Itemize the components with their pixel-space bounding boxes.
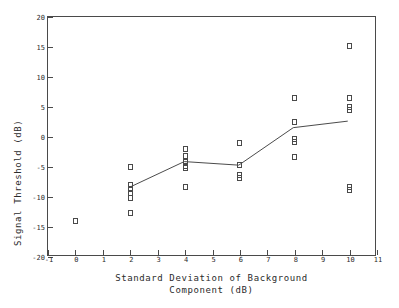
data-point-marker <box>183 165 188 171</box>
y-tick-label: -10 <box>32 195 45 202</box>
y-tick-label: 15 <box>37 45 45 52</box>
x-tick-label: 9 <box>321 257 325 264</box>
x-tick-label: 7 <box>266 257 270 264</box>
x-tick-label: 10 <box>346 257 354 264</box>
data-point-marker <box>73 218 78 224</box>
y-axis-title: Signal Threshold (dB) <box>2 50 16 250</box>
x-tick-label: 3 <box>157 257 161 264</box>
y-tick-label: 0 <box>41 135 45 142</box>
data-point-marker <box>292 139 297 145</box>
scatter-plot-figure: Signal Threshold (dB) -20-15-10-50510152… <box>0 0 399 308</box>
y-tick-label: -5 <box>37 165 45 172</box>
y-tick-label: 10 <box>37 75 45 82</box>
x-tick-label: 0 <box>74 257 78 264</box>
y-tick-label: 5 <box>41 105 45 112</box>
data-point-marker <box>292 95 297 101</box>
y-tick-label: -20 <box>32 255 45 262</box>
y-axis-title-text: Signal Threshold (dB) <box>13 120 23 246</box>
data-point-marker <box>128 164 133 170</box>
data-point-marker <box>347 107 352 113</box>
data-point-marker <box>183 146 188 152</box>
x-tick-label: 5 <box>211 257 215 264</box>
data-point-marker <box>347 187 352 193</box>
data-point-marker <box>128 210 133 216</box>
data-point-marker <box>183 184 188 190</box>
x-tick-label: -1 <box>45 257 53 264</box>
data-point-marker <box>347 95 352 101</box>
x-tick-label: 8 <box>294 257 298 264</box>
x-tick: 11 <box>377 250 378 255</box>
x-tick-label: 4 <box>184 257 188 264</box>
plot-area: -20-15-10-505101520 -101234567891011 <box>47 16 376 256</box>
data-point-marker <box>292 119 297 125</box>
data-point-marker <box>237 175 242 181</box>
x-axis-title: Standard Deviation of Background Compone… <box>47 272 376 296</box>
data-point-marker <box>237 140 242 146</box>
y-tick-label: 20 <box>37 15 45 22</box>
x-axis-title-line1: Standard Deviation of Background <box>47 272 376 284</box>
data-point-marker <box>292 154 297 160</box>
data-point-marker <box>128 195 133 201</box>
x-tick-label: 6 <box>239 257 243 264</box>
x-tick-label: 2 <box>129 257 133 264</box>
x-tick-label: 11 <box>374 257 382 264</box>
x-axis-title-line2: Component (dB) <box>47 284 376 296</box>
data-layer <box>48 17 375 255</box>
x-tick-label: 1 <box>102 257 106 264</box>
data-point-marker <box>237 162 242 168</box>
data-point-marker <box>347 43 352 49</box>
y-tick-label: -15 <box>32 225 45 232</box>
